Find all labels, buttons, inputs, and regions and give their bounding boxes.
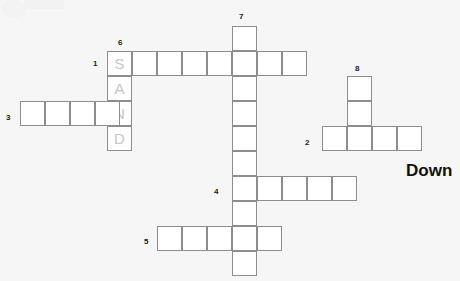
crossword-cell-filled[interactable]: A — [107, 76, 132, 101]
crossword-cell[interactable] — [332, 176, 357, 201]
crossword-cell[interactable] — [232, 201, 257, 226]
crossword-cell[interactable] — [232, 251, 257, 276]
crossword-cell[interactable] — [70, 101, 95, 126]
crossword-cell[interactable] — [257, 51, 282, 76]
scan-artifact-icon — [2, 0, 26, 18]
clue-number: 3 — [6, 114, 10, 122]
clue-number: 1 — [93, 60, 97, 68]
crossword-cell[interactable] — [182, 51, 207, 76]
crossword-cell[interactable] — [207, 51, 232, 76]
crossword-cell[interactable] — [347, 126, 372, 151]
crossword-cell[interactable] — [232, 151, 257, 176]
crossword-cell[interactable] — [232, 51, 257, 76]
crossword-cell[interactable] — [257, 176, 282, 201]
crossword-cell-filled[interactable]: D — [107, 126, 132, 151]
crossword-cell[interactable] — [207, 226, 232, 251]
clue-number: 5 — [144, 238, 148, 246]
crossword-cell[interactable] — [232, 76, 257, 101]
crossword-cell[interactable] — [232, 226, 257, 251]
crossword-cell-filled[interactable]: S — [107, 51, 132, 76]
crossword-cell[interactable] — [372, 126, 397, 151]
crossword-cell[interactable] — [232, 176, 257, 201]
crossword-cell[interactable] — [232, 126, 257, 151]
scan-artifact-bar — [24, 0, 64, 9]
crossword-cell[interactable] — [307, 176, 332, 201]
crossword-cell[interactable] — [282, 51, 307, 76]
crossword-cell[interactable] — [20, 101, 45, 126]
crossword-cell[interactable] — [347, 76, 372, 101]
crossword-cell[interactable] — [182, 226, 207, 251]
crossword-cell[interactable] — [397, 126, 422, 151]
crossword-cell[interactable] — [322, 126, 347, 151]
crossword-puzzle: SAND 12345678 Down — [0, 0, 460, 281]
clue-number: 4 — [214, 188, 218, 196]
crossword-cell[interactable] — [157, 226, 182, 251]
clue-number: 6 — [118, 39, 122, 47]
crossword-cell[interactable] — [232, 101, 257, 126]
crossword-cell[interactable] — [95, 101, 120, 126]
clue-number: 7 — [239, 13, 243, 21]
down-section-heading: Down — [406, 162, 452, 179]
crossword-cell[interactable] — [257, 226, 282, 251]
clue-number: 8 — [355, 65, 359, 73]
crossword-cell[interactable] — [132, 51, 157, 76]
crossword-cell[interactable] — [45, 101, 70, 126]
clue-number: 2 — [305, 139, 309, 147]
crossword-cell[interactable] — [282, 176, 307, 201]
crossword-cell[interactable] — [232, 26, 257, 51]
crossword-cell[interactable] — [347, 101, 372, 126]
crossword-cell[interactable] — [157, 51, 182, 76]
